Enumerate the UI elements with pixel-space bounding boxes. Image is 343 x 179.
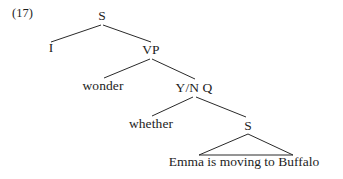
tree-branch-s-top-vp — [103, 25, 151, 42]
tree-node-s-embedded: S — [244, 119, 252, 132]
tree-branch-vp-ynq — [152, 59, 195, 79]
tree-node-s-root: S — [98, 9, 106, 22]
syntax-tree-figure: (17) S I VP wonder Y/N Q whether S Emma … — [0, 0, 343, 179]
tree-node-yes-no-q: Y/N Q — [176, 81, 213, 94]
tree-branch-s-top-i — [51, 25, 101, 42]
tree-branch-vp-wonder — [104, 59, 150, 78]
tree-branch-lines — [0, 0, 343, 179]
tree-abbreviation-triangle — [199, 134, 293, 155]
tree-branch-ynq-s-low — [196, 97, 246, 117]
tree-branch-ynq-whether — [152, 97, 193, 116]
tree-node-i: I — [49, 41, 54, 54]
tree-terminal-wonder: wonder — [82, 79, 123, 92]
tree-terminal-clause: Emma is moving to Buffalo — [169, 155, 320, 168]
tree-node-vp: VP — [142, 43, 159, 56]
tree-terminal-whether: whether — [129, 117, 173, 130]
